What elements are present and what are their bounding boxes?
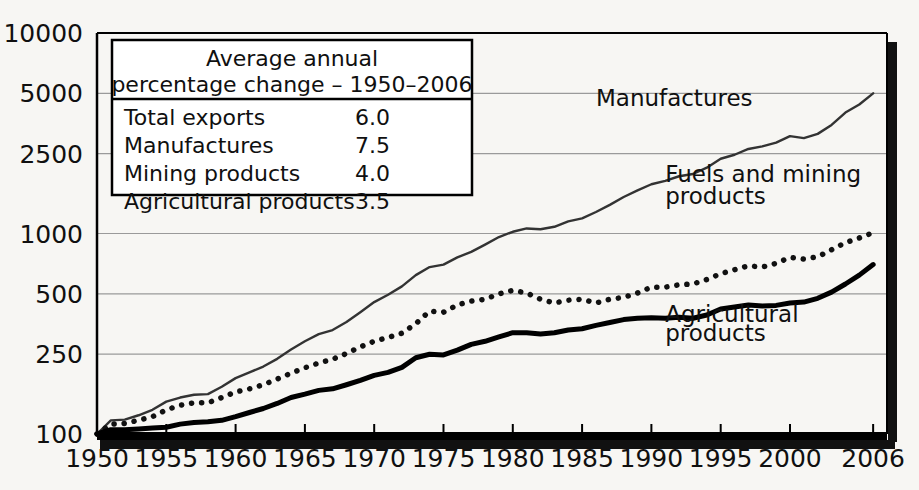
x-tick-label-1965: 1965 xyxy=(273,444,337,473)
x-tick-label-2000: 2000 xyxy=(758,444,822,473)
legend-row-value-3: 3.5 xyxy=(355,189,390,214)
y-tick-label-2500: 2500 xyxy=(19,140,83,169)
x-tick-label-1950: 1950 xyxy=(65,444,129,473)
y-tick-label-5000: 5000 xyxy=(19,79,83,108)
x-tick-label-2006: 2006 xyxy=(841,444,905,473)
legend-row-label-0: Total exports xyxy=(123,105,265,130)
x-tick-label-1975: 1975 xyxy=(412,444,476,473)
x-tick-label-1970: 1970 xyxy=(342,444,406,473)
legend-row-value-0: 6.0 xyxy=(355,105,390,130)
x-axis-bar xyxy=(97,432,887,440)
legend-title-line2: percentage change – 1950–2006 xyxy=(111,72,472,97)
x-tick-label-1960: 1960 xyxy=(204,444,268,473)
y-tick-label-250: 250 xyxy=(35,340,83,369)
legend-row-label-2: Mining products xyxy=(124,161,300,186)
x-tick-label-1995: 1995 xyxy=(689,444,753,473)
legend-title-line1: Average annual xyxy=(206,46,378,71)
chart-figure: 10000500025001000500250100 1950195519601… xyxy=(0,0,919,490)
agricultural-label-line2: products xyxy=(665,320,765,346)
fuels-label-line2: products xyxy=(665,183,765,209)
x-tick-label-1980: 1980 xyxy=(481,444,545,473)
manufactures-label: Manufactures xyxy=(596,85,753,111)
legend-row-value-2: 4.0 xyxy=(355,161,390,186)
x-tick-label-1990: 1990 xyxy=(620,444,684,473)
x-tick-label-1955: 1955 xyxy=(134,444,198,473)
frame-shadow-right xyxy=(888,42,897,442)
x-tick-label-1985: 1985 xyxy=(550,444,614,473)
legend-row-value-1: 7.5 xyxy=(355,133,390,158)
y-tick-label-10000: 10000 xyxy=(3,19,83,48)
legend-row-label-3: Agricultural products xyxy=(124,189,355,214)
y-tick-label-1000: 1000 xyxy=(19,220,83,249)
legend-row-label-1: Manufactures xyxy=(124,133,274,158)
log-line-chart: 10000500025001000500250100 1950195519601… xyxy=(0,0,919,490)
legend-box: Average annual percentage change – 1950–… xyxy=(111,40,472,214)
y-tick-label-500: 500 xyxy=(35,280,83,309)
